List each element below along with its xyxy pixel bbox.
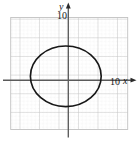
x-axis-label: x xyxy=(123,76,127,86)
grid-lines xyxy=(11,18,128,130)
y-axis-tick-label: 10 xyxy=(57,11,67,21)
coordinate-plane xyxy=(0,0,139,142)
x-axis-tick-label: 10 xyxy=(110,77,120,87)
graph-figure: y 10 10 x xyxy=(0,0,139,142)
